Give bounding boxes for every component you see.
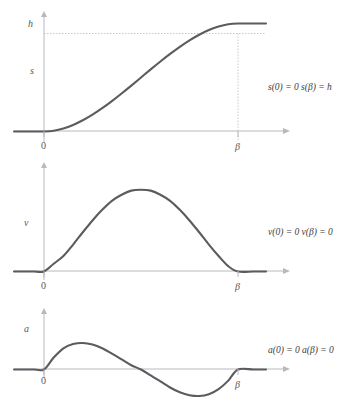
position-x-tick-label-beta: β <box>234 141 240 152</box>
figure-container: h s 0 β s(0) = 0 s(β) = h v 0 β v(0) = 0… <box>0 0 360 409</box>
velocity-x-axis-arrow <box>283 268 290 274</box>
acceleration-x-axis-arrow <box>283 366 290 372</box>
acceleration-x-tick-label-zero: 0 <box>41 375 46 386</box>
panel-velocity: v 0 β v(0) = 0 v(β) = 0 <box>14 162 333 292</box>
position-x-tick-label-zero: 0 <box>41 140 46 151</box>
panel-position: h s 0 β s(0) = 0 s(β) = h <box>14 11 332 152</box>
kinematics-figure: h s 0 β s(0) = 0 s(β) = h v 0 β v(0) = 0… <box>0 0 360 409</box>
position-y-axis-arrow <box>41 11 47 17</box>
position-equation: s(0) = 0 s(β) = h <box>268 82 332 93</box>
position-curve-main <box>14 23 266 131</box>
acceleration-equation: a(0) = 0 a(β) = 0 <box>268 345 334 356</box>
acceleration-curve <box>14 343 266 396</box>
acceleration-x-tick-label-beta: β <box>234 379 240 390</box>
panel-acceleration: a 0 β a(0) = 0 a(β) = 0 <box>14 308 334 396</box>
position-axis-label-s: s <box>30 65 34 76</box>
position-y-tick-label-h: h <box>28 18 33 29</box>
acceleration-y-axis-arrow <box>41 308 47 314</box>
velocity-x-tick-label-zero: 0 <box>41 280 46 291</box>
velocity-curve <box>14 190 266 272</box>
velocity-x-tick-label-beta: β <box>234 281 240 292</box>
velocity-y-axis-arrow <box>41 162 47 168</box>
acceleration-axis-label-a: a <box>24 323 29 334</box>
velocity-equation: v(0) = 0 v(β) = 0 <box>268 227 333 238</box>
velocity-axis-label-v: v <box>24 217 29 228</box>
position-x-axis-arrow <box>283 128 290 134</box>
